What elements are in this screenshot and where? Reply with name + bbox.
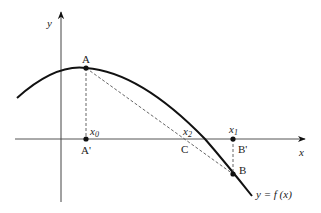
- point-B-prime: [230, 136, 235, 141]
- point-A: [83, 65, 88, 70]
- function-curve: [17, 68, 252, 196]
- newton-method-diagram: y x A A' C B' B x0 x2 x1 y = f (x): [0, 0, 321, 213]
- label-B-prime: B': [238, 143, 247, 155]
- y-axis-label: y: [46, 17, 52, 29]
- label-x1: x1: [228, 123, 238, 137]
- point-A-prime: [83, 136, 88, 141]
- label-A-prime: A': [81, 144, 91, 156]
- point-B: [230, 171, 235, 176]
- label-B: B: [239, 164, 246, 176]
- label-A: A: [82, 53, 90, 65]
- curve-label: y = f (x): [255, 188, 292, 201]
- label-C: C: [181, 143, 188, 155]
- label-x2: x2: [182, 125, 192, 139]
- dashed-secant-AB: [86, 68, 233, 174]
- label-x0: x0: [89, 125, 99, 139]
- x-axis-label: x: [298, 146, 304, 158]
